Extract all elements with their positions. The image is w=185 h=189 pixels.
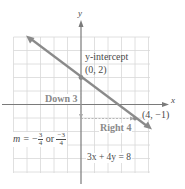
slope-m: m = [13, 133, 29, 144]
y-intercept-label: y-intercept [85, 52, 128, 62]
point2-label: (4, −1) [142, 110, 169, 120]
x-axis-arrow-icon [162, 102, 169, 107]
line-arrow-right-icon [144, 122, 153, 130]
down-label: Down 3 [44, 94, 79, 104]
slope-fraction-1: 34 [38, 132, 44, 147]
y-axis-arrow-icon [79, 20, 84, 27]
y-intercept-text: y-intercept [85, 51, 128, 62]
line-series [26, 36, 152, 130]
point-y-intercept [79, 75, 84, 80]
y-intercept-point-label: (0, 2) [85, 65, 107, 75]
slope-fraction-2: −34 [56, 132, 65, 147]
x-axis-label: x [171, 96, 175, 105]
slope-or: or [46, 133, 54, 144]
slope-label: m = −34 or −34 [12, 132, 67, 147]
point-4-neg1 [133, 117, 137, 121]
y-axis-label: y [78, 9, 82, 18]
slope-guides [79, 79, 135, 121]
right-label: Right 4 [99, 123, 132, 133]
equation-label: 3x + 4y = 8 [86, 153, 132, 163]
